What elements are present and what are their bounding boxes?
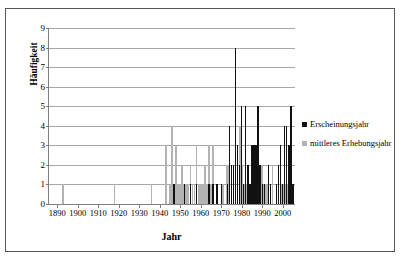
x-tick-label: 1900 bbox=[69, 209, 86, 218]
x-tick-label: 2000 bbox=[274, 209, 291, 218]
y-tick-label: 1 bbox=[41, 180, 46, 189]
bar bbox=[62, 184, 64, 204]
x-tick-label: 1940 bbox=[151, 209, 168, 218]
y-tick-label: 3 bbox=[41, 141, 46, 150]
bar bbox=[173, 184, 174, 204]
x-tick-label: 1920 bbox=[110, 209, 127, 218]
x-tick-label: 1960 bbox=[192, 209, 209, 218]
bar bbox=[184, 184, 185, 204]
bar bbox=[196, 184, 197, 204]
bar bbox=[190, 184, 191, 204]
bar bbox=[151, 184, 153, 204]
x-tick-label: 1990 bbox=[254, 209, 271, 218]
bar bbox=[264, 184, 265, 204]
x-axis-ticks: 1890190019101920193019401950196019701980… bbox=[49, 204, 295, 208]
x-tick-label: 1890 bbox=[49, 209, 66, 218]
plot-area: 0123456789 18901900191019201930194019501… bbox=[48, 28, 295, 205]
bar bbox=[212, 184, 213, 204]
bar-series-container bbox=[49, 28, 295, 204]
x-tick-label: 1910 bbox=[90, 209, 107, 218]
bar bbox=[114, 184, 116, 204]
y-axis-title-label: Häufigkeit bbox=[29, 42, 39, 85]
y-tick-label: 9 bbox=[41, 24, 46, 33]
y-tick-label: 8 bbox=[41, 43, 46, 52]
bar bbox=[221, 184, 222, 204]
y-tick-label: 7 bbox=[41, 63, 46, 72]
x-tick-label: 1950 bbox=[172, 209, 189, 218]
legend-swatch-icon bbox=[302, 141, 307, 146]
x-tick-label: 1970 bbox=[213, 209, 230, 218]
bar bbox=[165, 145, 167, 204]
x-tick-label: 1980 bbox=[233, 209, 250, 218]
bar bbox=[270, 184, 271, 204]
y-tick-label: 4 bbox=[41, 121, 46, 130]
chart-legend: Erscheinungsjahrmittleres Erhebungsjahr bbox=[302, 119, 394, 157]
bar bbox=[272, 165, 274, 204]
y-tick-label: 6 bbox=[41, 82, 46, 91]
legend-label: mittleres Erhebungsjahr bbox=[310, 138, 391, 148]
legend-swatch-icon bbox=[302, 122, 307, 127]
bar bbox=[216, 184, 217, 204]
y-axis-title: Häufigkeit bbox=[12, 59, 26, 69]
y-tick-label: 5 bbox=[41, 102, 46, 111]
legend-item: Erscheinungsjahr bbox=[302, 119, 394, 129]
chart-figure: Häufigkeit 0123456789 189019001910192019… bbox=[5, 8, 395, 252]
bar bbox=[292, 184, 293, 204]
x-axis-title: Jahr bbox=[48, 231, 295, 242]
legend-item: mittleres Erhebungsjahr bbox=[302, 138, 394, 148]
x-tick-label: 1930 bbox=[131, 209, 148, 218]
x-axis-title-label: Jahr bbox=[162, 231, 182, 242]
y-tick-label: 0 bbox=[41, 200, 46, 209]
bar bbox=[222, 184, 224, 204]
legend-label: Erscheinungsjahr bbox=[310, 119, 369, 129]
bar bbox=[208, 184, 209, 204]
y-tick-label: 2 bbox=[41, 160, 46, 169]
